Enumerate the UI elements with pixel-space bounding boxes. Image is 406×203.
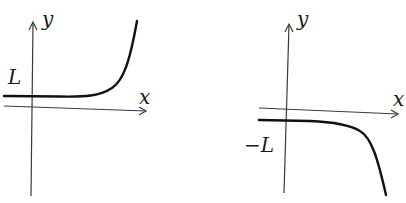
right-x-label: x: [393, 87, 404, 111]
left-x-axis: [4, 106, 146, 111]
right-x-axis: [259, 108, 398, 114]
right-asymptote-label: −L: [244, 133, 274, 157]
left-y-label: y: [41, 7, 54, 31]
right-panel: −L y x: [244, 7, 404, 195]
left-y-axis: [31, 23, 33, 196]
right-y-label: y: [296, 7, 309, 31]
left-asymptote-label: L: [7, 65, 21, 89]
figure: L y x −L y x: [0, 0, 406, 203]
right-curve: [259, 120, 386, 195]
left-x-label: x: [139, 85, 150, 109]
left-curve: [4, 21, 137, 97]
left-panel: L y x: [4, 7, 150, 196]
